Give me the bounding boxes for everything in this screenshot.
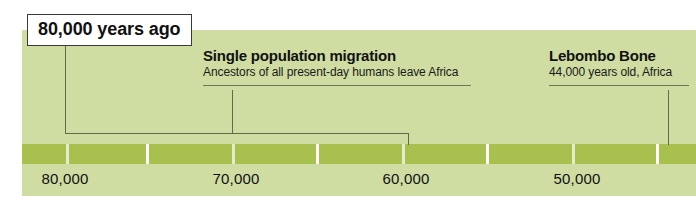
bar-tick-minor — [402, 144, 405, 164]
bar-tick-major — [146, 144, 149, 164]
axis-tick-label: 80,000 — [41, 170, 88, 187]
bar-tick-minor — [232, 144, 235, 164]
year-marker-box: 80,000 years ago — [27, 14, 192, 46]
callout-title: Lebombo Bone — [549, 47, 689, 64]
bar-tick-major — [656, 144, 659, 164]
callout-subtitle: 44,000 years old, Africa — [549, 65, 689, 81]
axis-tick-label: 50,000 — [553, 170, 600, 187]
leader-line-80000 — [65, 44, 66, 134]
human-migration-timeline: 80,000 70,000 60,000 50,000 80,000 years… — [0, 0, 696, 207]
callout-lebombo-bone: Lebombo Bone 44,000 years old, Africa — [549, 47, 689, 86]
axis-tick-label: 60,000 — [382, 170, 429, 187]
callout-single-population-migration: Single population migration Ancestors of… — [203, 47, 471, 86]
bracket-migration-span — [65, 133, 409, 134]
leader-line-migration — [232, 90, 233, 134]
callout-title: Single population migration — [203, 47, 471, 64]
bar-tick-major — [486, 144, 489, 164]
timeline-bar — [22, 144, 696, 164]
bracket-migration-right-drop — [408, 133, 409, 145]
callout-rule — [203, 85, 471, 86]
bar-tick-minor — [572, 144, 575, 164]
axis-tick-label: 70,000 — [212, 170, 259, 187]
leader-line-lebombo — [668, 90, 669, 145]
callout-subtitle: Ancestors of all present-day humans leav… — [203, 65, 471, 81]
callout-rule — [549, 85, 689, 86]
bar-tick-minor — [66, 144, 69, 164]
bar-tick-major — [316, 144, 319, 164]
